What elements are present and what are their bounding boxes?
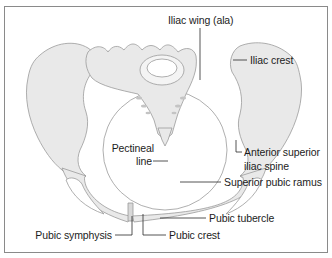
label-iliac-crest: Iliac crest (250, 54, 293, 67)
label-pubic-tubercle: Pubic tubercle (209, 212, 274, 225)
label-superior-pubic-ramus: Superior pubic ramus (224, 176, 322, 189)
label-pectineal-line1: Pectineal (108, 142, 154, 155)
left-ilium (26, 43, 95, 179)
label-asis-line1: Anterior superior (244, 146, 320, 159)
label-pubic-symphysis: Pubic symphysis (20, 229, 112, 242)
label-iliac-wing: Iliac wing (ala) (168, 14, 234, 27)
label-pectineal-line2: line (108, 155, 152, 168)
pelvis-illustration (0, 0, 332, 258)
label-asis-line2: iliac spine (244, 160, 289, 173)
label-pubic-crest: Pubic crest (169, 229, 220, 242)
